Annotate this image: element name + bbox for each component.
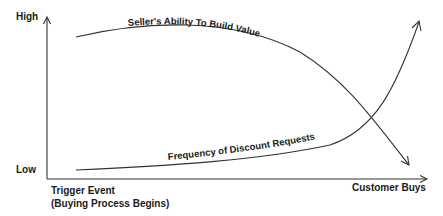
y-axis-low-label: Low xyxy=(16,164,36,176)
x-axis-end-label: Customer Buys xyxy=(352,182,426,194)
x-axis-start-label-line1: Trigger Event xyxy=(51,185,115,197)
discount-requests-label: Frequency of Discount Requests xyxy=(167,130,315,162)
seller-ability-label: Seller's Ability To Build Value xyxy=(127,15,261,39)
y-axis-high-label: High xyxy=(16,11,38,23)
y-axis xyxy=(44,17,51,179)
x-axis-start-label-line2: (Buying Process Begins) xyxy=(51,198,169,210)
